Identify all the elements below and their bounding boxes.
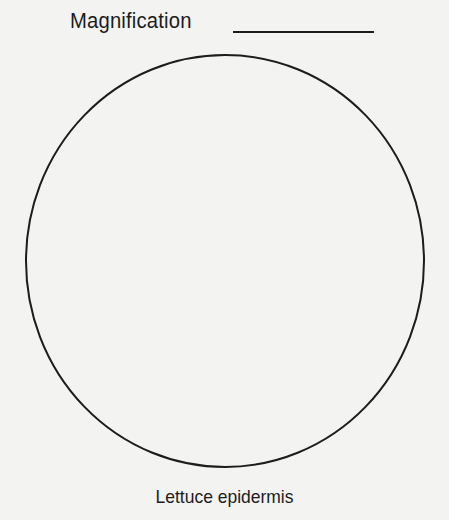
specimen-caption: Lettuce epidermis — [18, 486, 431, 508]
microscope-field-of-view-circle — [0, 0, 449, 520]
